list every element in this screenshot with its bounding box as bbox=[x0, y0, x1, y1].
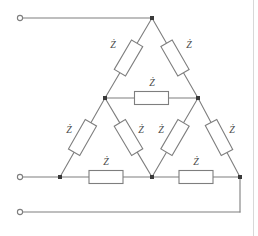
impedance-inner-right-to-bottom-right-label: Ż bbox=[229, 124, 235, 135]
impedance-inner-right-to-bottom-center-label: Ż bbox=[158, 124, 164, 135]
impedance-inner-right-to-bottom-right bbox=[198, 98, 240, 177]
impedance-inner-left-to-bottom-center-lead-a bbox=[105, 98, 120, 123]
impedance-inner-left-to-bottom-left-body bbox=[68, 120, 96, 156]
top-apex-node bbox=[150, 16, 154, 20]
impedance-inner-right-to-bottom-right-lead-b bbox=[227, 153, 240, 177]
impedance-inner-right-to-bottom-center bbox=[152, 98, 198, 177]
impedance-inner-left-to-bottom-left-lead-b bbox=[60, 152, 74, 177]
impedance-bottom-center-to-bottom-right-label: Ż bbox=[193, 156, 199, 167]
circuit-schematic-canvas: ŻŻŻŻŻŻŻŻŻ bbox=[0, 0, 258, 236]
impedance-inner-right-to-bottom-center-lead-a bbox=[184, 98, 198, 123]
impedance-apex-to-inner-left-body bbox=[114, 40, 142, 76]
terminal-layer bbox=[17, 15, 22, 214]
impedance-apex-to-inner-left bbox=[105, 18, 152, 98]
impedance-layer bbox=[60, 18, 240, 184]
bottom-left-node bbox=[58, 175, 62, 179]
impedance-inner-left-to-inner-right-label: Ż bbox=[149, 77, 155, 88]
impedance-inner-left-to-bottom-left-label: Ż bbox=[66, 124, 72, 135]
terminal-line-1[interactable] bbox=[17, 15, 22, 20]
bottom-center-node bbox=[150, 175, 154, 179]
impedance-inner-left-to-inner-right-body bbox=[135, 92, 169, 105]
bottom-right-node bbox=[238, 175, 242, 179]
circuit-diagram-figure: ŻŻŻŻŻŻŻŻŻ bbox=[0, 0, 258, 236]
impedance-apex-to-inner-left-lead-a bbox=[137, 18, 152, 43]
impedance-apex-to-inner-right-lead-b bbox=[183, 73, 198, 98]
impedance-inner-left-to-bottom-left-lead-a bbox=[91, 98, 105, 123]
impedance-apex-to-inner-right-body bbox=[161, 40, 189, 76]
impedance-apex-to-inner-right-lead-a bbox=[152, 18, 167, 43]
impedance-inner-left-to-bottom-center-lead-b bbox=[137, 152, 152, 177]
inner-right-node bbox=[196, 96, 200, 100]
impedance-inner-left-to-bottom-center bbox=[105, 98, 152, 177]
impedance-apex-to-inner-right-label: Ż bbox=[186, 39, 192, 50]
impedance-bottom-left-to-bottom-center-body bbox=[89, 171, 123, 184]
impedance-apex-to-inner-left-lead-b bbox=[105, 73, 120, 98]
impedance-apex-to-inner-left-label: Ż bbox=[110, 39, 116, 50]
impedance-inner-right-to-bottom-center-lead-b bbox=[152, 152, 166, 177]
impedance-inner-left-to-inner-right bbox=[105, 92, 198, 105]
terminal-line-3[interactable] bbox=[17, 209, 22, 214]
impedance-apex-to-inner-right bbox=[152, 18, 198, 98]
impedance-inner-right-to-bottom-center-body bbox=[161, 120, 189, 156]
inner-left-node bbox=[103, 96, 107, 100]
impedance-inner-right-to-bottom-right-lead-a bbox=[198, 98, 211, 122]
impedance-bottom-left-to-bottom-center bbox=[60, 171, 152, 184]
impedance-bottom-left-to-bottom-center-label: Ż bbox=[103, 156, 109, 167]
impedance-inner-left-to-bottom-left bbox=[60, 98, 105, 177]
terminal-line-2[interactable] bbox=[17, 174, 22, 179]
impedance-inner-left-to-bottom-center-label: Ż bbox=[138, 124, 144, 135]
impedance-bottom-center-to-bottom-right-body bbox=[179, 171, 213, 184]
impedance-bottom-center-to-bottom-right bbox=[152, 171, 240, 184]
